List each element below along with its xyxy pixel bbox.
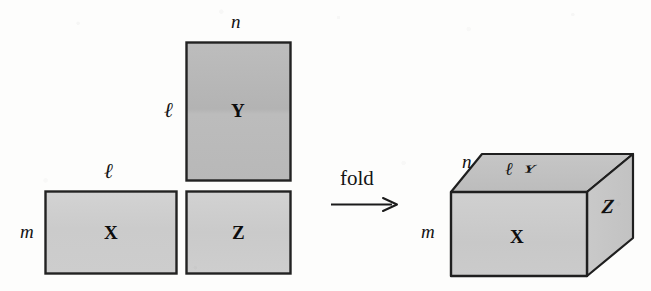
box-right-face-label-Z: Z — [601, 196, 615, 217]
net-dimension-label-ell-top: ℓ — [104, 161, 113, 182]
figure-geometry — [0, 0, 651, 291]
net-face-label-Y: Y — [231, 101, 245, 120]
box-front-face-label-X: X — [510, 227, 524, 246]
box-dimension-label-n: n — [462, 152, 472, 171]
box-dimension-label-m: m — [421, 222, 435, 241]
fold-label: fold — [340, 168, 374, 189]
net-dimension-label-n: n — [231, 12, 241, 31]
fold-arrow — [331, 198, 397, 211]
net-dimension-label-ell-left: ℓ — [164, 100, 173, 121]
net-face-label-X: X — [104, 223, 118, 242]
math-figure-fold-net-to-box: X Y Z m ℓ n ℓ fold m n ℓ Y X Z — [0, 0, 651, 291]
net-dimension-label-m: m — [20, 222, 34, 241]
net-face-label-Z: Z — [232, 223, 245, 242]
box-top-face-label-Y: Y — [523, 163, 536, 175]
net-group — [46, 43, 291, 274]
box-top-face-label-ell: ℓ — [505, 160, 513, 178]
